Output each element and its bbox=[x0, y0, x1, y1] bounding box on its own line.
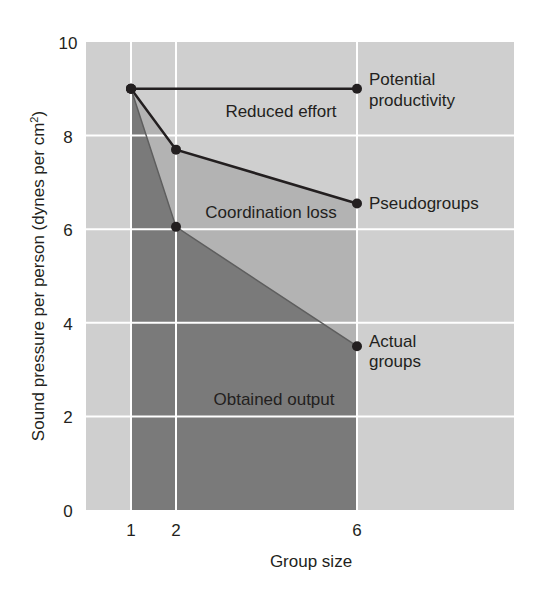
y-axis-ticks: 0246810 bbox=[59, 34, 78, 521]
region-label-reduced-effort: Reduced effort bbox=[225, 102, 336, 121]
series-label-pseudogroups: Pseudogroups bbox=[369, 194, 479, 213]
data-point-pseudogroups-6 bbox=[352, 198, 362, 208]
x-axis-ticks: 126 bbox=[126, 521, 361, 540]
x-tick-label: 1 bbox=[126, 521, 135, 540]
chart: 0246810 126 Sound pressure per person (d… bbox=[0, 0, 559, 593]
data-point-actual-groups-2 bbox=[171, 222, 181, 232]
y-tick-label: 8 bbox=[63, 128, 72, 147]
y-tick-label: 4 bbox=[63, 315, 72, 334]
region-label-obtained-output: Obtained output bbox=[214, 390, 335, 409]
y-tick-label: 2 bbox=[63, 408, 72, 427]
data-point-potential-productivity-6 bbox=[352, 84, 362, 94]
y-tick-label: 10 bbox=[59, 34, 78, 53]
y-tick-label: 0 bbox=[63, 502, 72, 521]
x-tick-label: 6 bbox=[352, 521, 361, 540]
y-axis-label: Sound pressure per person (dynes per cm2… bbox=[28, 111, 48, 441]
data-point-actual-groups-6 bbox=[352, 341, 362, 351]
series-label-actual-groups: Actual groups bbox=[369, 332, 421, 371]
data-point-pseudogroups-2 bbox=[171, 145, 181, 155]
region-label-coordination-loss: Coordination loss bbox=[205, 203, 336, 222]
x-axis-label: Group size bbox=[270, 552, 352, 571]
x-tick-label: 2 bbox=[171, 521, 180, 540]
y-tick-label: 6 bbox=[63, 221, 72, 240]
data-point-actual-groups-1 bbox=[126, 84, 136, 94]
